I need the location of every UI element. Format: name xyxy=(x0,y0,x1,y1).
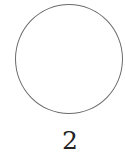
circle-shape xyxy=(15,4,123,114)
figure-label: 2 xyxy=(0,126,125,156)
